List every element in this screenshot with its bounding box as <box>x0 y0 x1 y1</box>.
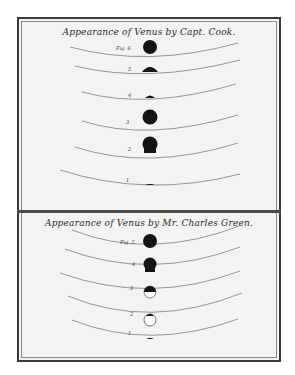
panel-charles-green: Appearance of Venus by Mr. Charles Green… <box>20 213 278 359</box>
transit-figures-cook: Fig. 6 5 4 3 2 1 <box>20 20 278 210</box>
figure-label: 3 <box>126 119 129 125</box>
sun-limb-arc <box>82 84 236 99</box>
sun-limb-arc <box>68 293 242 312</box>
figure-label: 1 <box>128 330 131 336</box>
venus-disc-icon <box>146 338 154 339</box>
figure-label: 2 <box>129 311 133 317</box>
figure-label: Fig. 6 <box>115 45 131 52</box>
sun-limb-arc <box>60 170 240 185</box>
transit-figures-green: Fig. 5 4 3 2 1 <box>20 213 278 359</box>
venus-disc-icon <box>142 67 158 72</box>
sun-limb-arc <box>72 225 242 244</box>
panel-capt-cook: Appearance of Venus by Capt. Cook. Fig. … <box>20 20 278 210</box>
figure-label: 3 <box>130 285 133 291</box>
figure-label: 4 <box>127 92 131 98</box>
venus-disc-icon <box>143 110 158 125</box>
venus-disc-icon <box>145 184 155 185</box>
figure-label: 1 <box>126 177 129 183</box>
venus-disc-icon <box>143 40 157 54</box>
venus-disc-icon <box>143 234 157 248</box>
figure-label: 5 <box>128 66 131 72</box>
figure-label: 4 <box>131 261 135 267</box>
figure-label: 2 <box>127 146 131 152</box>
sun-limb-arc <box>82 115 238 130</box>
venus-disc-icon <box>145 96 155 99</box>
figure-label: Fig. 5 <box>119 239 135 246</box>
